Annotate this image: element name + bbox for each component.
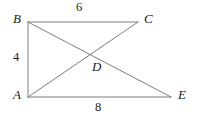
vertex-label-b: B xyxy=(13,12,21,25)
length-label-ab: 4 xyxy=(13,51,19,64)
length-label-bc: 6 xyxy=(76,1,82,14)
geometry-figure: B C A E D 6 4 8 xyxy=(0,0,200,119)
vertex-label-d: D xyxy=(92,60,101,73)
vertex-label-e: E xyxy=(178,88,186,101)
vertex-label-a: A xyxy=(13,88,21,101)
vertex-label-c: C xyxy=(144,12,153,25)
segment-ac-diagonal xyxy=(28,22,138,97)
length-label-ae: 8 xyxy=(95,101,101,114)
